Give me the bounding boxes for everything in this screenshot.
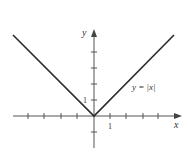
x-tick-label-1: 1: [108, 122, 112, 131]
y-axis: [91, 29, 97, 148]
x-axis-label: x: [173, 119, 179, 130]
y-axis-arrow-icon: [91, 29, 97, 37]
curve-label: y = |x|: [131, 82, 156, 92]
x-axis: [13, 113, 182, 119]
y-axis-label: y: [81, 27, 87, 38]
y-tick-label-1: 1: [83, 96, 87, 105]
absolute-value-graph: y x 1 1 y = |x|: [0, 0, 188, 152]
